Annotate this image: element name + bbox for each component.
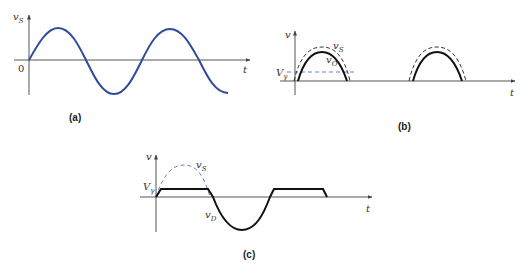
panel-c-vd-curve (156, 189, 327, 230)
panel-a-x-label: t (243, 64, 248, 75)
panel-a-y-label: vS (13, 11, 24, 25)
panel-b: v vS vO Vγ t (b) (276, 29, 515, 132)
panel-c-x-label: t (366, 203, 371, 214)
panel-b-vgamma-label: Vγ (276, 67, 288, 81)
panel-b-vs-label: vS (333, 40, 344, 54)
panel-a: vS 0 t (a) (13, 11, 250, 123)
panel-c-vd-label: vD (205, 209, 217, 223)
panel-c-vs-label: vS (196, 159, 207, 173)
panel-b-caption: (b) (398, 121, 411, 132)
panel-c-caption: (c) (243, 249, 255, 260)
panel-b-x-label: t (510, 87, 515, 98)
panel-a-caption: (a) (69, 112, 81, 123)
panel-b-y-label: v (285, 29, 291, 40)
panel-a-origin-label: 0 (18, 63, 24, 74)
panel-c: v vS Vγ vD t (c) (140, 151, 372, 260)
panel-c-vgamma-label: Vγ (143, 181, 155, 195)
diode-waveforms-figure: vS 0 t (a) v vS vO Vγ t (b) v vS Vγ vD (0, 0, 527, 266)
panel-a-vs-curve (29, 28, 228, 94)
panel-c-y-label: v (146, 151, 152, 162)
